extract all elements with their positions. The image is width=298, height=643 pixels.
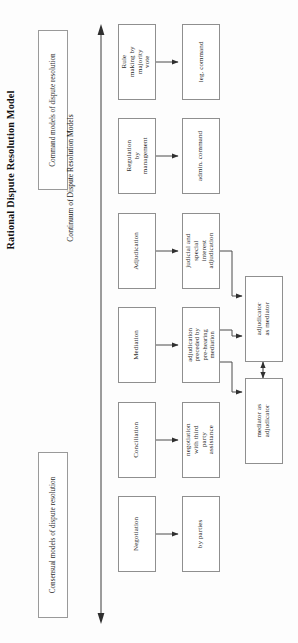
diagram-canvas: Rational Dispute Resolution Model Comman… — [0, 0, 298, 643]
hybrid-box-adjudicator-as-mediator[interactable]: adjudicator as mediator — [245, 276, 283, 362]
process-box-rule-making[interactable]: Rule making by majority vote — [118, 24, 156, 100]
process-label-mediation: Mediation — [133, 330, 141, 360]
outcome-label-admin-command: admin. command — [197, 131, 205, 181]
outcome-label-judicial-adjudication: judicial and special interest adjudicati… — [185, 233, 216, 269]
outcome-box-judicial-adjudication[interactable]: judicial and special interest adjudicati… — [182, 213, 220, 289]
outcome-box-admin-command[interactable]: admin. command — [182, 118, 220, 194]
outcome-label-by-parties: by parties — [197, 520, 205, 548]
process-label-rule-making: Rule making by majority vote — [121, 44, 152, 80]
process-box-mediation[interactable]: Mediation — [118, 307, 156, 383]
process-label-regulation: Regulation by management — [125, 138, 148, 175]
connector-preceded-to-adjudicator-as-mediator — [220, 330, 242, 336]
process-label-adjudication: Adjudication — [133, 232, 141, 270]
hybrid-label-adjudicator-as-mediator: adjudicator as mediator — [256, 301, 272, 337]
connector-preceded-to-mediator-as-adjudicator — [220, 362, 242, 392]
process-box-conciliation[interactable]: Conciliation — [118, 402, 156, 478]
outcome-label-adjudication-preceded: adjudication preceded by pre-hearing med… — [186, 327, 216, 363]
outcome-box-leg-command[interactable]: leg. command — [182, 24, 220, 100]
process-label-negotiation: Negotiation — [133, 517, 141, 551]
outcome-box-adjudication-preceded[interactable]: adjudication preceded by pre-hearing med… — [182, 307, 220, 383]
category-label-command: Command models of dispute resolution — [49, 53, 57, 166]
process-box-negotiation[interactable]: Negotiation — [118, 496, 156, 572]
category-label-consensual: Consensual models of dispute resolution — [49, 477, 57, 594]
outcome-box-by-parties[interactable]: by parties — [182, 496, 220, 572]
outcome-box-negotiation-third-party[interactable]: negotiation with third party assistance — [182, 402, 220, 478]
connector-judicial-to-adjudicator-as-mediator — [220, 251, 242, 296]
arrow-up-icon — [98, 24, 105, 35]
continuum-axis — [96, 24, 106, 624]
process-box-regulation[interactable]: Regulation by management — [118, 118, 156, 194]
continuum-axis-label: Continuum of Dispute Resolution Models — [62, 78, 78, 278]
process-box-adjudication[interactable]: Adjudication — [118, 213, 156, 289]
hybrid-box-mediator-as-adjudicator[interactable]: mediator as adjudicator — [245, 378, 283, 464]
outcome-label-leg-command: leg. command — [197, 42, 205, 83]
category-box-consensual: Consensual models of dispute resolution — [38, 452, 68, 618]
arrow-down-icon — [98, 613, 105, 624]
process-label-conciliation: Conciliation — [133, 422, 141, 458]
outcome-label-negotiation-third-party: negotiation with third party assistance — [185, 422, 216, 458]
page-title: Rational Dispute Resolution Model — [0, 80, 20, 260]
hybrid-label-mediator-as-adjudicator: mediator as adjudicator — [256, 403, 272, 439]
